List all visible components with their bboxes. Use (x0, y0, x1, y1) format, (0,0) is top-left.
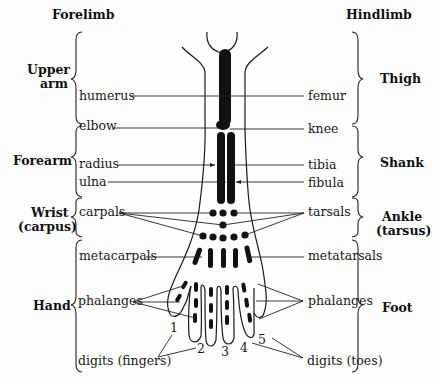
right-labels: femur knee tibia fibula tarsals metatars… (223, 88, 383, 368)
label-fibula: fibula (308, 175, 344, 190)
label-elbow: elbow (79, 118, 117, 133)
region-upper-arm-line2: arm (40, 76, 68, 91)
left-braces (71, 32, 82, 372)
label-digits-fingers: digits (fingers) (78, 353, 171, 368)
region-wrist-line2: (carpus) (18, 219, 77, 234)
region-ankle-line2: (tarsus) (376, 223, 431, 238)
label-humerus: humerus (79, 88, 135, 103)
forelimb-header: Forelimb (52, 7, 115, 22)
label-femur: femur (308, 88, 346, 103)
right-braces (352, 32, 363, 372)
region-forearm: Forearm (13, 153, 72, 168)
digit-numbers: 1 2 3 4 5 (170, 320, 266, 359)
label-tarsals: tarsals (308, 204, 351, 219)
region-shank: Shank (380, 155, 424, 170)
label-digits-toes: digits (toes) (307, 353, 383, 368)
region-upper-arm-line1: Upper (27, 62, 70, 77)
label-tibia: tibia (308, 157, 337, 172)
ulna-bone (227, 132, 235, 204)
digit-number-1: 1 (170, 320, 178, 335)
hindlimb-header: Hindlimb (346, 7, 412, 22)
label-carpals: carpals (79, 204, 125, 219)
digit-number-4: 4 (240, 340, 248, 355)
digit-number-3: 3 (221, 344, 229, 359)
label-radius: radius (79, 156, 119, 171)
region-hand: Hand (33, 298, 71, 313)
label-ulna: ulna (79, 174, 107, 189)
region-wrist-line1: Wrist (30, 205, 69, 220)
label-phalanges: phalanges (78, 293, 143, 308)
humerus-femur-bone (219, 49, 231, 126)
label-metatarsals: metatarsals (308, 248, 382, 263)
radius-bone (217, 132, 225, 204)
digit-number-2: 2 (197, 341, 205, 356)
bones (175, 49, 253, 329)
digit-number-5: 5 (258, 332, 266, 347)
region-thigh: Thigh (380, 71, 421, 86)
label-metacarpals: metacarpals (79, 248, 157, 263)
label-knee: knee (308, 121, 338, 136)
label-phalanges-hind: phalanges (308, 293, 373, 308)
left-labels: humerus elbow radius ulna carpals metaca… (78, 88, 226, 368)
region-foot: Foot (382, 300, 413, 315)
region-ankle-line1: Ankle (381, 209, 422, 224)
limb-homology-diagram: Forelimb Hindlimb Upper arm Forearm Wris… (0, 0, 435, 383)
